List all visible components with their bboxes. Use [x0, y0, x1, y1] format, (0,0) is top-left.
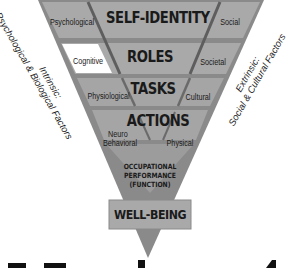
- level-tasks-left: Physiological: [87, 91, 126, 101]
- level-self-identity-left: Psychological: [48, 17, 96, 27]
- level-actions-title: ACTIONS: [127, 112, 183, 130]
- level-tasks-title: TASKS: [128, 80, 177, 98]
- level-self-identity-title: SELF-IDENTITY: [106, 9, 194, 27]
- occ-line1: OCCUPATIONAL: [116, 162, 184, 171]
- level-roles-title: ROLES: [119, 48, 181, 66]
- inverted-pyramid-graphic: [0, 0, 291, 268]
- level-self-identity-right: Social: [213, 17, 247, 27]
- cropped-heading-fragment: [0, 252, 291, 268]
- occ-line2: PERFORMANCE: [116, 171, 184, 180]
- level-actions-left: Neuro Behavioral: [103, 130, 137, 148]
- well-being-label: WELL-BEING: [114, 207, 186, 222]
- level-roles-left: Cognitive: [71, 56, 105, 66]
- occupational-performance-label: OCCUPATIONAL PERFORMANCE (FUNCTION): [116, 162, 184, 189]
- level-actions-right: Physical: [166, 138, 195, 148]
- cropped-glyph-tops: [0, 252, 291, 268]
- level-tasks-right: Cultural: [184, 92, 211, 102]
- level-actions-left-line2: Behavioral: [103, 139, 137, 148]
- ecological-model-diagram: SELF-IDENTITY Psychological Social ROLES…: [0, 0, 291, 268]
- level-roles-right: Societal: [199, 57, 228, 67]
- occ-line3: (FUNCTION): [116, 180, 184, 189]
